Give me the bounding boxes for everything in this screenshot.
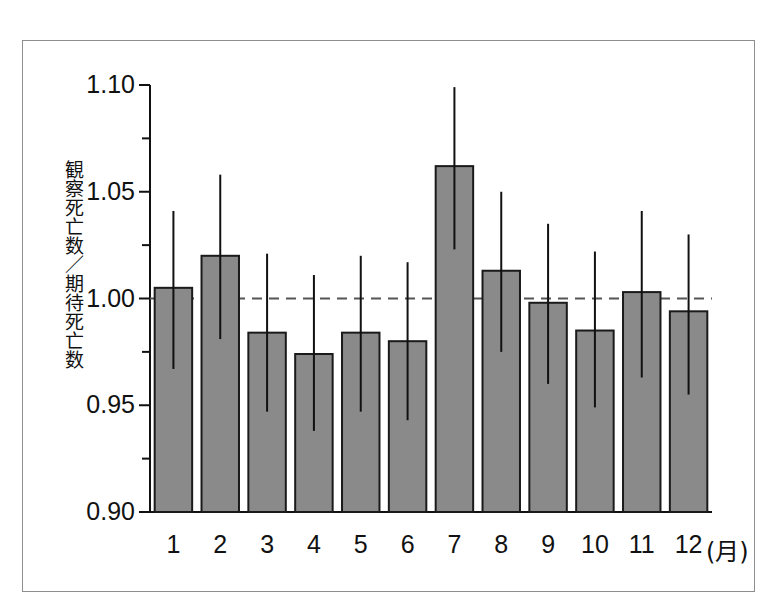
figure-canvas: 観察死亡数／期待死亡数 1.101.051.000.950.9012345678… (0, 0, 776, 613)
y-tick-label: 0.90 (57, 497, 135, 526)
y-tick-label: 1.10 (57, 70, 135, 99)
y-tick-label: 1.00 (57, 284, 135, 313)
y-tick-label: 0.95 (57, 390, 135, 419)
x-axis-unit-label: (月) (706, 532, 749, 567)
y-tick-label: 1.05 (57, 177, 135, 206)
